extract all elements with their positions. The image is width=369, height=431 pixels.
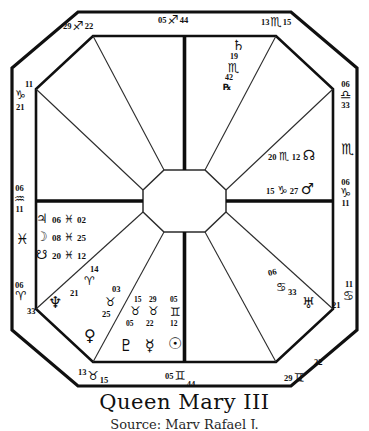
sun-degree: 05 — [170, 296, 178, 304]
uranus-degree: 06 — [267, 267, 277, 277]
mars-minute: 27 — [290, 187, 299, 196]
cancer-icon: ♋ — [343, 290, 354, 303]
sagittarius-icon: ♐ — [73, 20, 84, 33]
cusp-label-asc: 06 ♒ 11 — [14, 184, 25, 214]
sun-minute: 12 — [170, 320, 178, 328]
planet-jupiter: ♃ 06 ♓ 02 — [36, 212, 86, 225]
chart-subtitle: Source: Mary Rafael J. — [0, 418, 369, 429]
cusp-label-11: 29 ♐ 22 — [63, 20, 93, 33]
jupiter-icon: ♃ — [36, 212, 49, 225]
cusp-5-minute: 22 — [314, 358, 323, 367]
aries-icon: ♈ — [84, 275, 95, 287]
mars-degree: 15 — [266, 187, 275, 196]
saturn-icon: ♄ — [232, 38, 245, 53]
cusp-6-minute: 21 — [332, 301, 341, 310]
pisces-icon: ♓ — [64, 214, 74, 225]
uranus-minute: 33 — [288, 288, 297, 297]
cusp-dsc-minute: 11 — [342, 199, 350, 208]
south-node-icon: ☋ — [36, 248, 49, 261]
north-node-icon: ☊ — [303, 148, 315, 162]
gemini-icon: ♊ — [170, 306, 181, 318]
planet-list-left-house: ♃ 06 ♓ 02 ☽ 08 ♓ 25 ☋ 20 ♓ 12 — [36, 212, 86, 261]
moon-minute: 25 — [77, 234, 86, 243]
pluto-minute: 05 — [126, 320, 134, 328]
moon-icon: ☽ — [36, 230, 49, 243]
cusp-11-minute: 22 — [85, 22, 94, 31]
cusp-3-degree: 13 — [78, 368, 87, 377]
title-block: Queen Mary III Source: Mary Rafael J. — [0, 392, 369, 429]
mercury-icon: ☿ — [145, 338, 155, 354]
gemini-icon: ♊ — [294, 372, 305, 385]
cusp-label-9: 13 ♏ 15 — [261, 16, 291, 29]
taurus-icon: ♉ — [105, 296, 116, 308]
cusp-label-mc: 05 ♐ 44 — [158, 14, 188, 27]
north-node-minute: 12 — [292, 153, 301, 162]
scorpio-icon: ♏ — [271, 16, 282, 29]
capricorn-icon: ♑ — [277, 185, 287, 197]
neptune-minute: 21 — [70, 289, 79, 298]
cusp-9-minute: 15 — [283, 18, 292, 27]
gemini-icon: ♊ — [175, 370, 186, 383]
moon-degree: 08 — [52, 234, 61, 243]
venus-icon: ♀ — [84, 328, 96, 344]
cusp-ic-minute: 44 — [187, 380, 196, 389]
scorpio-icon: ♏ — [341, 142, 354, 157]
scorpio-icon: ♏ — [279, 151, 289, 163]
north-node-degree: 20 — [268, 153, 277, 162]
natal-chart: 29 ♐ 22 05 ♐ 44 13 ♏ 15 06 ♎ 33 06 ♑ 11 … — [0, 0, 369, 431]
pisces-icon: ♓ — [64, 232, 74, 243]
cusp-5-degree: 29 — [284, 374, 293, 383]
pluto-icon: ♇ — [119, 338, 133, 354]
mars-icon: ♂ — [301, 182, 314, 197]
mercury-minute: 22 — [146, 320, 154, 328]
sagittarius-icon: ♐ — [168, 14, 179, 27]
cusp-mc-degree: 05 — [158, 16, 167, 25]
sun-icon: ☉ — [168, 336, 182, 352]
planet-saturn: ♄ 19 ♏ 42 ℞ — [228, 38, 245, 92]
cusp-9-degree: 13 — [261, 18, 270, 27]
cusp-label-5: 29 ♊ — [284, 372, 306, 385]
capricorn-icon: ♑ — [15, 89, 26, 101]
neptune-icon: ♆ — [48, 295, 62, 311]
cusp-3-minute: 15 — [100, 376, 109, 385]
planet-mars: 15 ♑ 27 ♂ — [266, 182, 314, 197]
planet-north-node: 20 ♏ 12 ☊ — [268, 148, 315, 163]
pisces-icon: ♓ — [64, 250, 74, 261]
pluto-degree: 15 — [134, 296, 142, 304]
cusp-asc-minute: 11 — [16, 205, 24, 214]
retrograde-icon: ℞ — [223, 83, 231, 92]
venus-degree: 03 — [112, 285, 121, 294]
neptune-degree: 14 — [90, 265, 99, 274]
cusp-mc-minute: 44 — [180, 16, 189, 25]
aries-icon: ♈ — [15, 290, 26, 303]
cusp-12-minute: 21 — [16, 103, 25, 112]
taurus-icon: ♉ — [148, 305, 159, 317]
cancer-icon: ♋ — [276, 281, 287, 293]
mercury-degree: 29 — [149, 296, 157, 304]
pisces-icon: ♓ — [16, 232, 29, 247]
cusp-label-2: 06 ♈ — [15, 281, 26, 302]
south-node-minute: 12 — [77, 252, 86, 261]
planet-moon: ☽ 08 ♓ 25 — [36, 230, 86, 243]
cusp-label-dsc: 06 ♑ 11 — [340, 178, 351, 208]
cusp-2-minute: 33 — [27, 307, 36, 316]
cusp-label-ic: 05 ♊ 44 — [165, 370, 195, 383]
taurus-icon: ♉ — [130, 305, 141, 317]
cusp-11-degree: 29 — [63, 22, 72, 31]
uranus-icon: ♅ — [302, 296, 315, 311]
cusp-label-3: 13 ♉ 15 — [78, 370, 108, 383]
jupiter-minute: 02 — [77, 216, 86, 225]
venus-minute: 25 — [102, 310, 111, 319]
cusp-8-minute: 33 — [341, 101, 350, 110]
cusp-label-8: 06 ♎ 33 — [340, 80, 351, 110]
center-octagon — [143, 170, 226, 232]
south-node-degree: 20 — [52, 252, 61, 261]
page-title: Queen Mary III — [0, 392, 369, 413]
jupiter-degree: 06 — [52, 216, 61, 225]
cusp-ic-degree: 05 — [165, 372, 174, 381]
planet-south-node: ☋ 20 ♓ 12 — [36, 248, 86, 261]
cusp-12-degree: 11 — [25, 80, 33, 89]
taurus-icon: ♉ — [88, 370, 99, 383]
